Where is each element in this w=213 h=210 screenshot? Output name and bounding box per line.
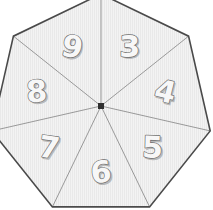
sector-label-8: 8: [25, 73, 48, 109]
sector-6[interactable]: 66: [89, 154, 114, 192]
sector-8[interactable]: 88: [25, 73, 50, 111]
sector-label-3: 3: [119, 29, 140, 64]
sector-5[interactable]: 55: [141, 129, 165, 166]
sector-label-6: 6: [89, 154, 113, 191]
sector-3[interactable]: 33: [119, 29, 141, 65]
center-hub: [98, 103, 104, 109]
sector-label-5: 5: [142, 129, 164, 165]
spinner-canvas: 33445566778899: [0, 0, 213, 210]
heptagon-wheel[interactable]: 33445566778899: [0, 0, 213, 210]
